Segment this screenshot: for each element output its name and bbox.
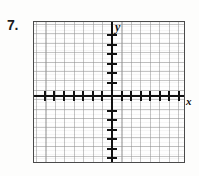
y-axis-tick [107, 148, 117, 150]
x-axis-tick [121, 91, 123, 101]
x-axis-tick [149, 91, 151, 101]
x-axis-tick [130, 91, 132, 101]
x-axis-tick [159, 91, 161, 101]
x-axis-tick [82, 91, 84, 101]
x-axis-line [34, 95, 185, 97]
exercise-container: 7. y x [0, 0, 199, 176]
y-axis-tick [107, 129, 117, 131]
y-axis-tick [107, 34, 117, 36]
x-axis-tick [63, 91, 65, 101]
x-axis-tick [101, 91, 103, 101]
x-axis-label: x [186, 96, 192, 107]
x-axis-tick [140, 91, 142, 101]
y-axis-label: y [115, 21, 120, 33]
grid-lines [34, 22, 184, 162]
y-axis-tick [107, 44, 117, 46]
x-axis-tick [92, 91, 94, 101]
x-axis-tick [73, 91, 75, 101]
problem-number: 7. [7, 18, 18, 32]
y-axis-tick [107, 82, 117, 84]
y-axis-tick [107, 110, 117, 112]
coordinate-grid[interactable] [33, 21, 185, 163]
y-axis-tick [107, 157, 117, 159]
y-axis-tick [107, 63, 117, 65]
y-axis-tick [107, 72, 117, 74]
x-axis-tick [178, 91, 180, 101]
y-axis-tick [107, 53, 117, 55]
y-axis-tick [107, 119, 117, 121]
y-axis-tick [107, 138, 117, 140]
x-axis-tick [168, 91, 170, 101]
x-axis-tick [44, 91, 46, 101]
x-axis-tick [53, 91, 55, 101]
